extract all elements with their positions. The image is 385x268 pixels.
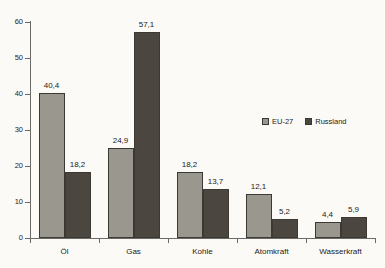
legend-swatch-eu27-icon — [262, 118, 269, 125]
bar-value-label: 18,2 — [173, 161, 207, 169]
bar-chart: 0102030405060 40,418,2Öl24,957,1Gas18,21… — [0, 0, 385, 268]
x-axis-tick — [306, 238, 307, 243]
y-axis-line — [30, 21, 31, 239]
bar-value-label: 57,1 — [130, 21, 164, 29]
y-axis-tick-label: 60 — [1, 18, 23, 26]
bar-eu27 — [108, 148, 134, 238]
bar-value-label: 40,4 — [35, 82, 69, 90]
y-axis-tick-label: 10 — [1, 198, 23, 206]
legend-swatch-russland-icon — [305, 118, 312, 125]
bar-value-label: 12,1 — [242, 183, 276, 191]
bar-value-label: 5,9 — [337, 206, 371, 214]
x-axis-category-label: Gas — [99, 248, 168, 256]
bar-russland — [203, 189, 229, 238]
bar-value-label: 24,9 — [104, 137, 138, 145]
y-axis-tick-label: 20 — [1, 162, 23, 170]
y-axis-tick-label: 0 — [1, 234, 23, 242]
bar-value-label: 18,2 — [61, 161, 95, 169]
x-axis-line — [30, 238, 375, 239]
y-axis-tick — [25, 166, 30, 167]
bar-russland — [65, 172, 91, 238]
bar-value-label: 13,7 — [199, 178, 233, 186]
x-axis-tick — [168, 238, 169, 243]
y-axis-tick-label: 30 — [1, 126, 23, 134]
bar-russland — [341, 217, 367, 238]
y-axis-tick — [25, 22, 30, 23]
x-axis-category-label: Kohle — [168, 248, 237, 256]
legend-label-eu27: EU-27 — [272, 118, 293, 126]
bar-eu27 — [315, 222, 341, 238]
bar-value-label: 5,2 — [268, 208, 302, 216]
y-axis-tick-label: 50 — [1, 54, 23, 62]
x-axis-tick — [99, 238, 100, 243]
legend-entry-eu27: EU-27 — [262, 118, 293, 126]
y-axis-tick-label: 40 — [1, 90, 23, 98]
y-axis-tick — [25, 58, 30, 59]
bar-russland — [272, 219, 298, 238]
x-axis-tick — [237, 238, 238, 243]
legend-label-russland: Russland — [315, 118, 346, 126]
chart-legend: EU-27 Russland — [262, 118, 347, 126]
x-axis-tick — [375, 238, 376, 243]
y-axis-tick — [25, 94, 30, 95]
bar-russland — [134, 32, 160, 238]
x-axis-tick — [30, 238, 31, 243]
x-axis-category-label: Wasserkraft — [306, 248, 375, 256]
y-axis-tick — [25, 130, 30, 131]
x-axis-category-label: Öl — [30, 248, 99, 256]
x-axis-category-label: Atomkraft — [237, 248, 306, 256]
y-axis-tick — [25, 202, 30, 203]
legend-entry-russland: Russland — [305, 118, 346, 126]
